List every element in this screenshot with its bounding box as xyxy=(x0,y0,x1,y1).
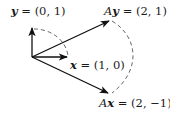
label-Ay-value: = (2, 1) xyxy=(119,4,167,18)
arc-Ay-to-Ax xyxy=(112,21,133,93)
label-Ax-value: = (2, −1) xyxy=(114,96,170,110)
label-Ax-var: x xyxy=(106,96,114,110)
label-y-value: = (0, 1) xyxy=(18,4,66,18)
transformation-diagram: y = (0, 1) Ay = (2, 1) x = (1, 0) Ax = (… xyxy=(0,0,170,115)
label-Ax-prefix: A xyxy=(98,96,107,110)
label-y: y = (0, 1) xyxy=(10,4,66,18)
label-x: x = (1, 0) xyxy=(69,58,125,72)
vector-Ay xyxy=(32,21,109,57)
label-x-value: = (1, 0) xyxy=(77,58,125,72)
label-Ay: Ay = (2, 1) xyxy=(103,4,167,18)
label-Ax: Ax = (2, −1) xyxy=(98,96,170,110)
label-x-var: x xyxy=(69,58,77,72)
label-Ay-prefix: A xyxy=(103,4,112,18)
